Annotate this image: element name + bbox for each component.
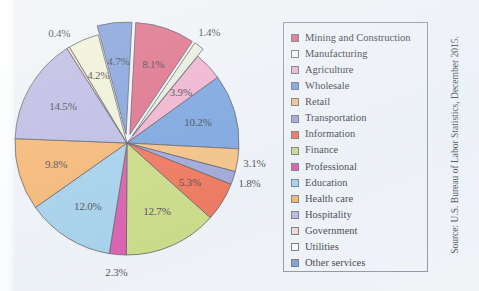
legend-swatch-icon [291, 66, 299, 74]
pie-slice-label: 3.1% [243, 157, 265, 169]
legend-item[interactable]: Education [291, 175, 427, 191]
legend-swatch-icon [291, 227, 299, 235]
pie-slice-label: 4.2% [87, 69, 109, 81]
pie-slice-label: 3.9% [170, 86, 192, 98]
pie-chart-figure: 8.1%1.4%3.9%10.2%3.1%1.8%5.3%12.7%2.3%12… [0, 0, 479, 291]
legend-swatch-icon [291, 243, 299, 251]
source-note: Source: U.S. Bureau of Labor Statistics,… [450, 36, 460, 254]
pie-slice-label: 12.7% [143, 205, 170, 217]
legend-item[interactable]: Manufacturing [291, 46, 427, 62]
legend-item-label: Manufacturing [305, 49, 367, 60]
legend-item-label: Transportation [305, 113, 366, 124]
legend-item[interactable]: Retail [291, 94, 427, 110]
legend-item-label: Retail [305, 97, 330, 108]
legend-swatch-icon [291, 163, 299, 171]
legend-item[interactable]: Other services [291, 255, 427, 271]
legend-swatch-icon [291, 147, 299, 155]
chart-legend: Mining and ConstructionManufacturingAgri… [283, 22, 428, 272]
pie-svg [8, 10, 270, 282]
legend-item[interactable]: Information [291, 127, 427, 143]
legend-swatch-icon [291, 179, 299, 187]
legend-item[interactable]: Wholesale [291, 78, 427, 94]
legend-item-label: Health care [305, 194, 353, 205]
legend-rows: Mining and ConstructionManufacturingAgri… [291, 30, 427, 271]
legend-swatch-icon [291, 195, 299, 203]
legend-item[interactable]: Professional [291, 159, 427, 175]
legend-swatch-icon [291, 211, 299, 219]
legend-item-label: Utilities [305, 242, 339, 253]
legend-item-label: Information [305, 129, 355, 140]
legend-item-label: Hospitality [305, 210, 352, 221]
pie-slice-label: 12.0% [74, 200, 101, 212]
legend-item-label: Agriculture [305, 65, 353, 76]
legend-item[interactable]: Finance [291, 143, 427, 159]
legend-item[interactable]: Health care [291, 191, 427, 207]
legend-swatch-icon [291, 82, 299, 90]
legend-item-label: Professional [305, 162, 357, 173]
pie-slice-label: 1.8% [238, 177, 260, 189]
pie-slice-label: 0.4% [48, 27, 70, 39]
legend-swatch-icon [291, 98, 299, 106]
legend-item-label: Wholesale [305, 81, 349, 92]
legend-item-label: Government [305, 226, 358, 237]
pie-slice-label: 1.4% [198, 26, 220, 38]
legend-swatch-icon [291, 115, 299, 123]
legend-swatch-icon [291, 34, 299, 42]
legend-item[interactable]: Mining and Construction [291, 30, 427, 46]
pie-slice-label: 9.8% [45, 158, 67, 170]
pie-slice-label: 10.2% [184, 116, 211, 128]
pie-slice-label: 8.1% [142, 58, 164, 70]
pie-slice-label: 14.5% [49, 100, 76, 112]
legend-item-label: Other services [305, 258, 365, 269]
legend-item[interactable]: Transportation [291, 110, 427, 126]
legend-item-label: Finance [305, 145, 338, 156]
legend-swatch-icon [291, 131, 299, 139]
pie-chart-plot-area: 8.1%1.4%3.9%10.2%3.1%1.8%5.3%12.7%2.3%12… [8, 10, 270, 282]
pie-slice-label: 5.3% [179, 176, 201, 188]
pie-slice-label: 2.3% [105, 266, 127, 278]
legend-item[interactable]: Agriculture [291, 62, 427, 78]
legend-swatch-icon [291, 50, 299, 58]
legend-swatch-icon [291, 259, 299, 267]
legend-item[interactable]: Hospitality [291, 207, 427, 223]
legend-item[interactable]: Utilities [291, 239, 427, 255]
legend-item-label: Mining and Construction [305, 33, 411, 44]
legend-item-label: Education [305, 178, 348, 189]
legend-item[interactable]: Government [291, 223, 427, 239]
pie-slice-label: 4.7% [107, 55, 129, 67]
